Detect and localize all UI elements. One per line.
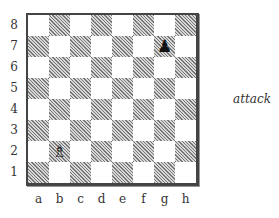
square-a8 [28,15,49,36]
diagram-caption: attack [233,92,271,106]
rank-label: 5 [8,78,20,99]
square-f6 [133,57,154,78]
square-e6 [112,57,133,78]
file-label: e [112,192,133,206]
square-g4 [154,99,175,120]
square-e5 [112,78,133,99]
square-a2 [28,141,49,162]
file-label: g [154,192,175,206]
square-g5 [154,78,175,99]
square-c6 [70,57,91,78]
square-c8 [70,15,91,36]
file-label: h [175,192,196,206]
rank-label: 6 [8,57,20,78]
square-g6 [154,57,175,78]
square-b4 [49,99,70,120]
square-a4 [28,99,49,120]
file-label: c [70,192,91,206]
square-b2: ♗ [49,141,70,162]
square-e7 [112,36,133,57]
square-a5 [28,78,49,99]
board-grid: ♟♗ [28,15,196,183]
square-a7 [28,36,49,57]
file-label: d [91,192,112,206]
square-a1 [28,162,49,183]
square-d6 [91,57,112,78]
square-f4 [133,99,154,120]
rank-label: 1 [8,162,20,183]
square-e2 [112,141,133,162]
square-c2 [70,141,91,162]
rank-label: 2 [8,141,20,162]
square-b8 [49,15,70,36]
square-g7: ♟ [154,36,175,57]
square-h4 [175,99,196,120]
square-e1 [112,162,133,183]
square-c5 [70,78,91,99]
square-h1 [175,162,196,183]
file-label: f [133,192,154,206]
square-b5 [49,78,70,99]
square-a6 [28,57,49,78]
square-f3 [133,120,154,141]
rank-label: 7 [8,36,20,57]
square-e3 [112,120,133,141]
file-label: a [28,192,49,206]
square-d7 [91,36,112,57]
square-h2 [175,141,196,162]
square-c7 [70,36,91,57]
square-g8 [154,15,175,36]
square-d3 [91,120,112,141]
square-f7 [133,36,154,57]
square-f5 [133,78,154,99]
square-h6 [175,57,196,78]
square-g2 [154,141,175,162]
square-g3 [154,120,175,141]
file-label: b [49,192,70,206]
square-b1 [49,162,70,183]
square-e4 [112,99,133,120]
square-d8 [91,15,112,36]
square-d4 [91,99,112,120]
square-f2 [133,141,154,162]
white-bishop-icon: ♗ [49,141,70,162]
square-d1 [91,162,112,183]
square-e8 [112,15,133,36]
square-c4 [70,99,91,120]
square-g1 [154,162,175,183]
square-h7 [175,36,196,57]
chess-board: ♟♗ [26,13,199,186]
square-h3 [175,120,196,141]
rank-label: 4 [8,99,20,120]
rank-label: 8 [8,15,20,36]
square-a3 [28,120,49,141]
rank-label: 3 [8,120,20,141]
square-h8 [175,15,196,36]
square-c1 [70,162,91,183]
square-b6 [49,57,70,78]
square-b7 [49,36,70,57]
square-f8 [133,15,154,36]
square-f1 [133,162,154,183]
square-d2 [91,141,112,162]
square-b3 [49,120,70,141]
square-h5 [175,78,196,99]
square-c3 [70,120,91,141]
square-d5 [91,78,112,99]
black-pawn-icon: ♟ [154,36,175,57]
